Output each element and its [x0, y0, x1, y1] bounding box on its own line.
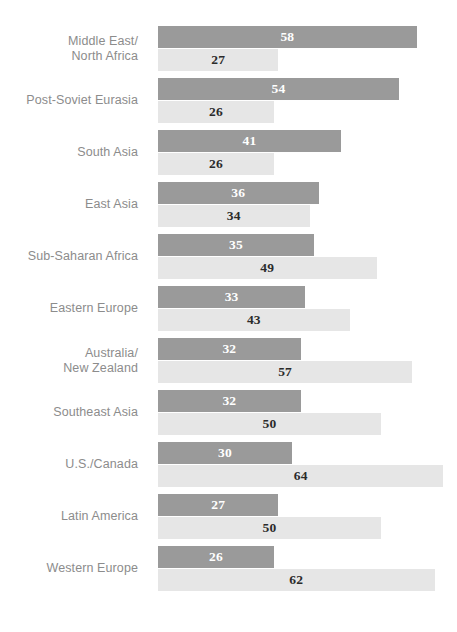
- row-bars: 3250: [158, 390, 457, 436]
- bar-secondary: 43: [158, 309, 350, 331]
- bar-primary: 26: [158, 546, 274, 568]
- chart-row: U.S./Canada3064: [0, 442, 457, 488]
- bar-primary: 35: [158, 234, 314, 256]
- chart-row: Western Europe2662: [0, 546, 457, 592]
- row-bars: 5426: [158, 78, 457, 124]
- bar-secondary-value: 50: [263, 521, 277, 535]
- row-category-label: Middle East/North Africa: [0, 26, 148, 72]
- bar-secondary: 64: [158, 465, 443, 487]
- row-category-label: U.S./Canada: [0, 442, 148, 488]
- row-bars: 3257: [158, 338, 457, 384]
- bar-secondary-value: 26: [209, 105, 223, 119]
- row-bars: 2750: [158, 494, 457, 540]
- row-category-label-line: Latin America: [61, 509, 138, 525]
- bar-primary: 58: [158, 26, 417, 48]
- row-bars: 3343: [158, 286, 457, 332]
- row-category-label-line: South Asia: [77, 145, 138, 161]
- bar-primary-value: 35: [229, 238, 243, 252]
- bar-secondary: 27: [158, 49, 278, 71]
- chart-row: East Asia3634: [0, 182, 457, 228]
- bar-primary-value: 54: [271, 82, 285, 96]
- bar-primary: 27: [158, 494, 278, 516]
- row-bars: 3549: [158, 234, 457, 280]
- row-bars: 3634: [158, 182, 457, 228]
- bar-primary-value: 41: [242, 134, 256, 148]
- row-category-label: East Asia: [0, 182, 148, 228]
- bar-secondary: 26: [158, 153, 274, 175]
- bar-secondary-value: 27: [211, 53, 225, 67]
- row-category-label: Latin America: [0, 494, 148, 540]
- bar-secondary: 49: [158, 257, 377, 279]
- row-category-label-line: North Africa: [71, 49, 138, 65]
- chart-row: South Asia4126: [0, 130, 457, 176]
- row-category-label-line: Sub-Saharan Africa: [28, 249, 138, 265]
- bar-secondary-value: 49: [260, 261, 274, 275]
- bar-primary: 33: [158, 286, 305, 308]
- row-category-label-line: Post-Soviet Eurasia: [26, 93, 138, 109]
- chart-row: Sub-Saharan Africa3549: [0, 234, 457, 280]
- row-category-label: Australia/New Zealand: [0, 338, 148, 384]
- bar-secondary-value: 64: [294, 469, 308, 483]
- row-category-label-line: Southeast Asia: [53, 405, 138, 421]
- bar-primary-value: 30: [218, 446, 232, 460]
- chart-row: Latin America2750: [0, 494, 457, 540]
- bar-primary: 36: [158, 182, 319, 204]
- bar-primary: 32: [158, 338, 301, 360]
- row-category-label-line: East Asia: [85, 197, 138, 213]
- bar-secondary-value: 50: [263, 417, 277, 431]
- row-bars: 3064: [158, 442, 457, 488]
- bar-primary-value: 32: [222, 342, 236, 356]
- chart-row: Middle East/North Africa5827: [0, 26, 457, 72]
- row-category-label: Western Europe: [0, 546, 148, 592]
- chart-row: Post-Soviet Eurasia5426: [0, 78, 457, 124]
- bar-primary-value: 27: [211, 498, 225, 512]
- row-bars: 5827: [158, 26, 457, 72]
- bar-secondary-value: 57: [278, 365, 292, 379]
- bar-secondary-value: 43: [247, 313, 261, 327]
- bar-secondary: 57: [158, 361, 412, 383]
- row-category-label-line: Western Europe: [47, 561, 139, 577]
- chart-row: Eastern Europe3343: [0, 286, 457, 332]
- chart-row: Southeast Asia3250: [0, 390, 457, 436]
- bar-primary: 41: [158, 130, 341, 152]
- bar-secondary-value: 62: [289, 573, 303, 587]
- bar-secondary: 34: [158, 205, 310, 227]
- bar-secondary: 50: [158, 517, 381, 539]
- bar-secondary: 26: [158, 101, 274, 123]
- row-category-label-line: Middle East/: [68, 34, 138, 50]
- row-bars: 4126: [158, 130, 457, 176]
- row-category-label: Post-Soviet Eurasia: [0, 78, 148, 124]
- bar-primary: 32: [158, 390, 301, 412]
- row-category-label-line: U.S./Canada: [65, 457, 138, 473]
- row-category-label: Eastern Europe: [0, 286, 148, 332]
- row-bars: 2662: [158, 546, 457, 592]
- bar-secondary-value: 34: [227, 209, 241, 223]
- row-category-label: Sub-Saharan Africa: [0, 234, 148, 280]
- bar-secondary: 62: [158, 569, 435, 591]
- bar-primary: 54: [158, 78, 399, 100]
- bar-primary-value: 32: [222, 394, 236, 408]
- row-category-label: South Asia: [0, 130, 148, 176]
- bar-primary-value: 33: [225, 290, 239, 304]
- chart-row: Australia/New Zealand3257: [0, 338, 457, 384]
- bar-primary-value: 58: [280, 30, 294, 44]
- bar-primary: 30: [158, 442, 292, 464]
- grouped-bar-chart: Middle East/North Africa5827Post-Soviet …: [0, 0, 457, 632]
- bar-secondary: 50: [158, 413, 381, 435]
- row-category-label: Southeast Asia: [0, 390, 148, 436]
- row-category-label-line: Australia/: [85, 346, 138, 362]
- row-category-label-line: New Zealand: [63, 361, 138, 377]
- bar-primary-value: 26: [209, 550, 223, 564]
- row-category-label-line: Eastern Europe: [50, 301, 138, 317]
- bar-secondary-value: 26: [209, 157, 223, 171]
- bar-primary-value: 36: [231, 186, 245, 200]
